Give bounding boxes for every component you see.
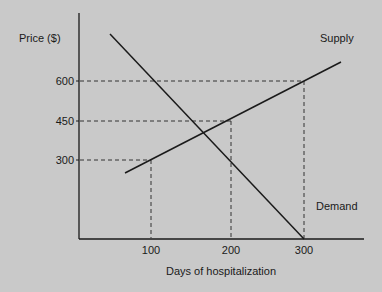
- y-axis-label: Price ($): [19, 32, 61, 44]
- supply-demand-chart: Price ($) Supply Demand 600 450 300 100 …: [0, 0, 382, 292]
- reference-lines: [80, 81, 304, 238]
- x-tick-label-300: 300: [295, 244, 313, 256]
- x-tick-label-100: 100: [142, 244, 160, 256]
- x-axis-label: Days of hospitalization: [166, 265, 276, 277]
- demand-label: Demand: [316, 200, 358, 212]
- x-tick-label-200: 200: [222, 244, 240, 256]
- supply-curve: [125, 62, 341, 173]
- supply-label: Supply: [320, 32, 354, 44]
- y-tick-label-450: 450: [56, 115, 74, 127]
- y-tick-label-600: 600: [56, 75, 74, 87]
- demand-curve: [110, 34, 304, 239]
- y-tick-label-300: 300: [56, 154, 74, 166]
